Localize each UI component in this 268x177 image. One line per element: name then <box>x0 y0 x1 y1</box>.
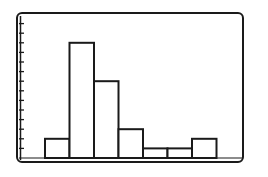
histogram-bar <box>70 43 95 158</box>
histogram-bar <box>45 139 70 158</box>
histogram-bar <box>119 129 144 158</box>
histogram-bar <box>168 148 193 158</box>
histogram-bar <box>94 81 119 158</box>
histogram-chart <box>0 0 268 177</box>
histogram-bar <box>192 139 217 158</box>
histogram-bar <box>143 148 168 158</box>
